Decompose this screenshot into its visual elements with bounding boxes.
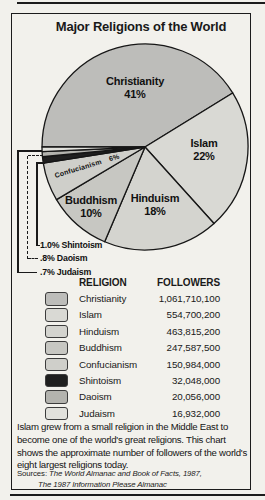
table-row: Hinduism 463,815,200 xyxy=(17,324,235,340)
pie-label-pct: 41% xyxy=(85,88,185,101)
pie-label-name: Islam xyxy=(169,137,239,150)
legend-swatch-judaism xyxy=(45,407,68,421)
followers-count: 463,815,200 xyxy=(167,326,220,337)
followers-count: 1,061,710,100 xyxy=(159,293,220,304)
callout-line-daoism-bottom xyxy=(28,258,38,259)
callout-label-daoism: .8% Daoism xyxy=(40,253,87,263)
callout-line-judaism-top xyxy=(17,150,42,152)
callout-name: Shintoism xyxy=(62,240,103,250)
table-row: Islam 554,700,200 xyxy=(17,307,235,323)
callout-pct: .8% xyxy=(40,253,55,263)
sources-line1: Sources: The World Almanac and Book of F… xyxy=(17,469,247,480)
legend-swatch-islam xyxy=(45,308,68,322)
table-row: Daoism 20,056,000 xyxy=(17,389,235,405)
religion-name: Christianity xyxy=(79,293,126,304)
col-header-religion: RELIGION xyxy=(79,277,127,288)
pie-label-pct: 6% xyxy=(108,153,120,163)
chart-title: Major Religions of the World xyxy=(31,19,251,34)
table-row: Judaism 16,932,000 xyxy=(17,406,235,422)
callout-line-judaism-vertical xyxy=(17,150,19,273)
sources-title-2: The 1987 Information Please Almanac xyxy=(38,480,247,491)
callout-line-shintoism-vertical xyxy=(36,162,38,246)
pie-label-islam: Islam 22% xyxy=(169,137,239,162)
legend-swatch-daoism xyxy=(45,390,68,404)
callout-line-daoism-vertical xyxy=(27,156,28,259)
followers-count: 247,587,500 xyxy=(167,342,220,353)
callout-line-shintoism-top xyxy=(36,162,45,164)
followers-count: 20,056,000 xyxy=(172,391,220,402)
table-header: RELIGION FOLLOWERS xyxy=(17,277,235,291)
sources-prefix: Sources: xyxy=(17,469,47,478)
followers-count: 554,700,200 xyxy=(167,309,220,320)
religion-name: Confucianism xyxy=(79,359,137,370)
legend-swatch-confucianism xyxy=(45,358,68,372)
table-row: Confucianism 150,984,000 xyxy=(17,357,235,373)
pie-label-name: Christianity xyxy=(85,75,185,88)
pie-label-christianity: Christianity 41% xyxy=(85,75,185,100)
col-header-followers: FOLLOWERS xyxy=(157,277,220,288)
religion-name: Judaism xyxy=(79,408,115,419)
callout-label-judaism: .7% Judaism xyxy=(40,267,91,277)
callout-label-shintoism: 1.0% Shintoism xyxy=(40,240,102,250)
religion-name: Buddhism xyxy=(79,342,122,353)
sources-note: Sources: The World Almanac and Book of F… xyxy=(17,469,247,490)
callout-line-judaism-bottom xyxy=(17,272,37,274)
religion-name: Shintoism xyxy=(79,375,121,386)
religion-name: Daoism xyxy=(79,391,112,402)
callout-name: Daoism xyxy=(57,253,88,263)
followers-count: 150,984,000 xyxy=(167,359,220,370)
religion-name: Hinduism xyxy=(79,326,119,337)
table-row: Christianity 1,061,710,100 xyxy=(17,291,235,307)
top-rule xyxy=(17,2,265,4)
pie-label-buddhism: Buddhism 10% xyxy=(51,194,131,219)
legend-swatch-buddhism xyxy=(45,341,68,355)
pie-label-name: Buddhism xyxy=(51,194,131,207)
callout-line-daoism-top xyxy=(28,155,43,156)
legend-swatch-christianity xyxy=(45,292,68,306)
pie-label-pct: 22% xyxy=(169,150,239,163)
legend-swatch-shintoism xyxy=(45,374,68,388)
bottom-rule xyxy=(10,494,265,496)
callout-name: Judaism xyxy=(57,267,91,277)
religion-name: Islam xyxy=(79,309,102,320)
followers-count: 16,932,000 xyxy=(172,408,220,419)
pie-label-pct: 10% xyxy=(51,207,131,220)
table-row: Buddhism 247,587,500 xyxy=(17,340,235,356)
sources-title-1: The World Almanac and Book of Facts, 198… xyxy=(49,469,202,478)
table-row: Shintoism 32,048,000 xyxy=(17,373,235,389)
followers-count: 32,048,000 xyxy=(172,375,220,386)
religion-table: RELIGION FOLLOWERS Christianity 1,061,71… xyxy=(17,277,235,422)
page: Major Religions of the World Christianit… xyxy=(0,0,265,500)
callout-pct: .7% xyxy=(40,267,55,277)
legend-swatch-hinduism xyxy=(45,325,68,339)
chart-caption: Islam grew from a small religion in the … xyxy=(17,421,253,472)
callout-pct: 1.0% xyxy=(40,240,59,250)
